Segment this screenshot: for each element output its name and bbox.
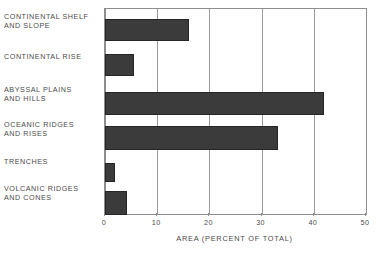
x-tick-mark	[208, 213, 209, 216]
bar	[105, 92, 324, 115]
x-tick-label: 30	[256, 218, 265, 227]
x-tick-label: 0	[102, 218, 106, 227]
category-label: ABYSSAL PLAINS AND HILLS	[4, 85, 100, 103]
category-label: TRENCHES	[4, 157, 100, 166]
bar	[105, 163, 115, 182]
bar-chart: CONTINENTAL SHELF AND SLOPECONTINENTAL R…	[0, 0, 381, 254]
category-label-column: CONTINENTAL SHELF AND SLOPECONTINENTAL R…	[0, 0, 100, 213]
category-label: CONTINENTAL SHELF AND SLOPE	[4, 12, 100, 30]
category-label: CONTINENTAL RISE	[4, 52, 100, 61]
bar	[105, 19, 189, 41]
plot-area	[104, 8, 367, 215]
x-axis: AREA (PERCENT OF TOTAL) 01020304050	[104, 213, 365, 254]
x-axis-title: AREA (PERCENT OF TOTAL)	[104, 234, 365, 243]
bar	[105, 54, 134, 76]
x-tick-mark	[365, 213, 366, 216]
bars-layer	[105, 9, 366, 214]
x-tick-mark	[104, 213, 105, 216]
x-tick-label: 40	[308, 218, 317, 227]
category-label: VOLCANIC RIDGES AND CONES	[4, 184, 100, 202]
x-tick-label: 50	[361, 218, 370, 227]
x-tick-mark	[156, 213, 157, 216]
bar	[105, 126, 278, 150]
x-tick-label: 20	[204, 218, 213, 227]
bar	[105, 191, 127, 215]
category-label: OCEANIC RIDGES AND RISES	[4, 120, 100, 138]
x-tick-label: 10	[152, 218, 161, 227]
x-tick-mark	[313, 213, 314, 216]
x-tick-mark	[261, 213, 262, 216]
gridline-50	[366, 9, 367, 214]
